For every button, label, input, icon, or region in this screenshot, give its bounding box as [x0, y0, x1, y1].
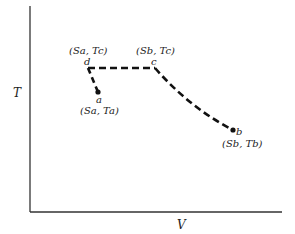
diagram-svg: [0, 0, 295, 234]
point-b-marker: [230, 127, 235, 132]
point-a-label: a: [96, 95, 102, 105]
y-axis-label: T: [13, 87, 21, 99]
point-c-label: c: [151, 57, 157, 67]
diagram-canvas: T V (Sa, Tc) d (Sb, Tc) c a (Sa, Ta) b (…: [0, 0, 295, 234]
x-axis-label: V: [177, 219, 186, 231]
point-d-coord: (Sa, Tc): [69, 46, 107, 56]
point-b-label: b: [236, 127, 242, 137]
point-a-coord: (Sa, Ta): [80, 106, 119, 116]
point-c-coord: (Sb, Tc): [136, 46, 175, 56]
point-d-label: d: [84, 57, 90, 67]
path-c-b: [155, 68, 233, 130]
point-b-coord: (Sb, Tb): [222, 139, 262, 149]
path-a-d: [88, 68, 98, 92]
